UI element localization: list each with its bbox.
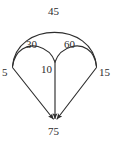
diagram-canvas: 45 30 60 5 10 15 75 — [0, 0, 113, 141]
node-label-right: 15 — [99, 67, 110, 78]
node-label-bottom: 75 — [48, 126, 59, 137]
edge-line-right-to-bottom — [57, 68, 97, 120]
edge-label-outer-arc: 45 — [48, 6, 59, 17]
node-label-left: 5 — [2, 67, 8, 78]
edge-line-left-to-bottom — [13, 68, 54, 120]
edge-label-right-arc: 60 — [64, 39, 75, 50]
edge-label-left-arc: 30 — [26, 39, 37, 50]
graph-svg — [0, 0, 113, 141]
node-label-middle: 10 — [41, 64, 52, 75]
